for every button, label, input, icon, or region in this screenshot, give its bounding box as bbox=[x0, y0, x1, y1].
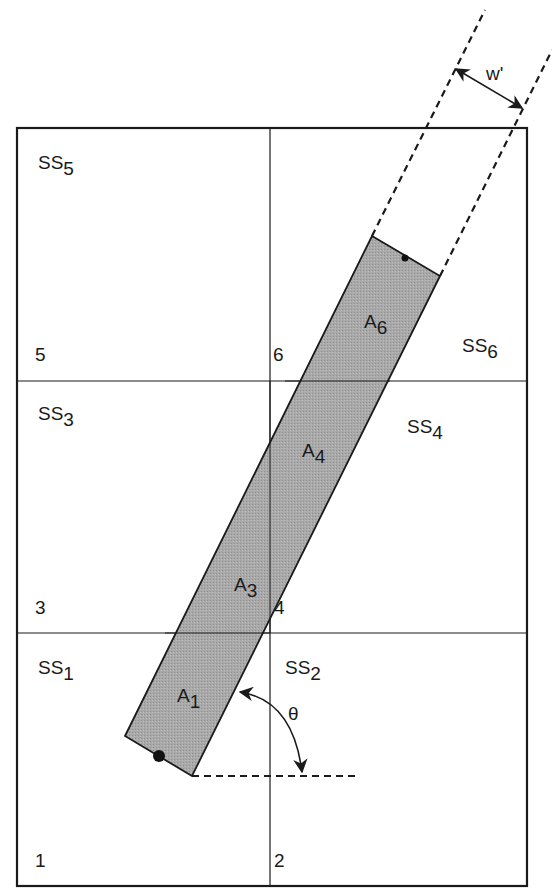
corner-number-6: 6 bbox=[273, 344, 284, 365]
corner-number-1: 1 bbox=[35, 850, 46, 871]
subsection-label-ss4: SS4 bbox=[407, 416, 443, 443]
width-label: w' bbox=[485, 63, 503, 84]
subsection-label-ss2: SS2 bbox=[285, 657, 321, 684]
corner-number-5: 5 bbox=[35, 344, 46, 365]
angle-label: θ bbox=[288, 703, 299, 724]
diagram-canvas: w' θ SS5 SS6 SS3 SS4 SS1 SS2 A6 A4 A3 A1… bbox=[0, 0, 552, 892]
pivot-dot-top bbox=[402, 255, 409, 262]
shaded-strip bbox=[125, 236, 440, 776]
pivot-dot-bottom bbox=[153, 750, 165, 762]
subsection-label-ss6: SS6 bbox=[462, 335, 498, 362]
corner-number-4: 4 bbox=[274, 597, 285, 618]
dashed-extension-left bbox=[372, 10, 485, 236]
subsection-label-ss1: SS1 bbox=[38, 657, 74, 684]
subsection-label-ss3: SS3 bbox=[38, 403, 74, 430]
corner-number-2: 2 bbox=[274, 850, 285, 871]
subsection-label-ss5: SS5 bbox=[38, 152, 74, 179]
corner-number-3: 3 bbox=[35, 597, 46, 618]
